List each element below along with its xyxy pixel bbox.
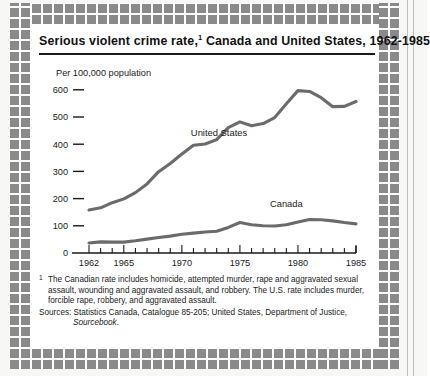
decorative-border-bottom	[10, 348, 400, 369]
x-tick-marks	[89, 245, 356, 253]
y-tick-label: 0	[63, 248, 68, 258]
y-tick-labels: 0100200300400500600	[53, 85, 68, 258]
y-tick-label: 300	[53, 167, 68, 177]
x-tick-label: 1980	[288, 258, 308, 268]
data-series-lines	[89, 91, 356, 243]
x-tick-label: 1965	[114, 258, 134, 268]
series-line-united-states	[89, 91, 356, 210]
page-edge-rule-right	[413, 0, 414, 376]
sources-italic: Sourcebook.	[73, 318, 373, 329]
figure-content: Serious violent crime rate,1 Canada and …	[31, 24, 379, 348]
decorative-border-top	[10, 3, 400, 24]
decorative-border-left	[10, 3, 31, 369]
x-tick-label: 1985	[346, 258, 366, 268]
decorative-border-right	[379, 3, 400, 369]
series-inline-labels: United StatesCanada	[191, 127, 304, 209]
y-tick-label: 600	[53, 85, 68, 95]
page-edge-rule-left	[407, 0, 408, 376]
x-tick-label: 1975	[230, 258, 250, 268]
y-tick-label: 100	[53, 221, 68, 231]
sources-text: Sources: Statistics Canada, Catalogue 85…	[39, 308, 347, 317]
sources-note: Sources: Statistics Canada, Catalogue 85…	[39, 308, 373, 329]
footnote-marker: 1	[39, 273, 43, 284]
y-tick-marks	[73, 90, 84, 226]
series-label-united-states: United States	[191, 127, 248, 138]
x-tick-label: 1962	[79, 258, 99, 268]
figure-notes: 1The Canadian rate includes homicide, at…	[39, 275, 373, 329]
figure-box: Serious violent crime rate,1 Canada and …	[10, 3, 400, 369]
series-line-canada	[89, 220, 356, 243]
x-tick-label: 1970	[172, 258, 192, 268]
x-tick-labels: 196219651970197519801985	[79, 258, 366, 268]
y-tick-label: 200	[53, 194, 68, 204]
series-label-canada: Canada	[270, 198, 304, 209]
footnote-1: 1The Canadian rate includes homicide, at…	[39, 275, 373, 307]
footnote-text: The Canadian rate includes homicide, att…	[48, 275, 364, 305]
y-tick-label: 500	[53, 112, 68, 122]
y-tick-label: 400	[53, 140, 68, 150]
